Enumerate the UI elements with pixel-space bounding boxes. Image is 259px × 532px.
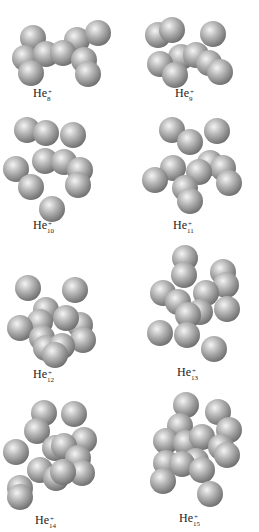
element-symbol: He (177, 365, 191, 379)
helium-atom-sphere (15, 275, 41, 301)
element-symbol: He (173, 218, 187, 232)
helium-atom-sphere (147, 320, 173, 346)
cluster-he13 (147, 245, 240, 362)
cluster-label-he8: He+8 (33, 87, 55, 99)
helium-atom-sphere (174, 322, 200, 348)
element-symbol: He (33, 367, 47, 381)
helium-atom-sphere (207, 59, 233, 85)
helium-atom-sphere (18, 174, 44, 200)
cluster-label-he14: He+14 (35, 514, 61, 526)
helium-atom-sphere (216, 170, 242, 196)
helium-atom-sphere (53, 305, 79, 331)
cluster-size-subscript: 9 (189, 93, 193, 105)
helium-atom-sphere (65, 172, 91, 198)
helium-atom-sphere (7, 484, 33, 510)
cluster-label-he13: He+13 (177, 366, 203, 378)
helium-atom-sphere (214, 442, 240, 468)
helium-atom-sphere (177, 188, 203, 214)
cluster-size-subscript: 14 (49, 520, 56, 532)
cluster-label-he10: He+10 (33, 219, 59, 231)
cluster-label-he15: He+15 (179, 512, 205, 524)
element-symbol: He (179, 511, 193, 525)
cluster-size-subscript: 8 (47, 93, 51, 105)
cluster-he8 (12, 20, 111, 87)
helium-atom-sphere (214, 296, 240, 322)
cluster-size-subscript: 15 (193, 518, 200, 530)
helium-atom-sphere (171, 262, 197, 288)
element-symbol: He (35, 513, 49, 527)
helium-atom-sphere (159, 17, 185, 43)
element-symbol: He (33, 86, 47, 100)
helium-atom-sphere (18, 60, 44, 86)
cluster-size-subscript: 12 (47, 374, 54, 386)
element-symbol: He (175, 86, 189, 100)
cluster-he12 (7, 275, 96, 368)
cluster-label-he11: He+11 (173, 219, 199, 231)
helium-atom-sphere (204, 118, 230, 144)
helium-atom-sphere (200, 21, 226, 47)
helium-atom-sphere (60, 122, 86, 148)
helium-atom-sphere (62, 277, 88, 303)
helium-atom-sphere (75, 61, 101, 87)
cluster-size-subscript: 10 (47, 225, 54, 237)
cluster-he9 (145, 17, 233, 88)
helium-atom-sphere (142, 167, 168, 193)
cluster-he15 (150, 392, 242, 507)
helium-atom-sphere (189, 457, 215, 483)
cluster-he11 (142, 117, 242, 214)
helium-atom-sphere (61, 401, 87, 427)
cluster-label-he9: He+9 (175, 87, 197, 99)
helium-cluster-figure: He+8He+9He+10He+11He+12He+13He+14He+15 S… (0, 0, 259, 532)
element-symbol: He (33, 218, 47, 232)
helium-atom-sphere (33, 120, 59, 146)
helium-atom-sphere (85, 20, 111, 46)
cluster-size-subscript: 11 (187, 225, 194, 237)
cluster-he10 (3, 117, 93, 222)
helium-atom-sphere (3, 439, 29, 465)
helium-atom-sphere (197, 481, 223, 507)
helium-atom-sphere (150, 468, 176, 494)
helium-atom-sphere (162, 62, 188, 88)
cluster-label-he12: He+12 (33, 368, 59, 380)
helium-atom-sphere (50, 459, 76, 485)
cluster-canvas (0, 0, 259, 532)
helium-atom-sphere (177, 129, 203, 155)
cluster-size-subscript: 13 (191, 372, 198, 384)
helium-atom-sphere (42, 342, 68, 368)
cluster-he14 (3, 400, 97, 510)
helium-atom-sphere (201, 336, 227, 362)
